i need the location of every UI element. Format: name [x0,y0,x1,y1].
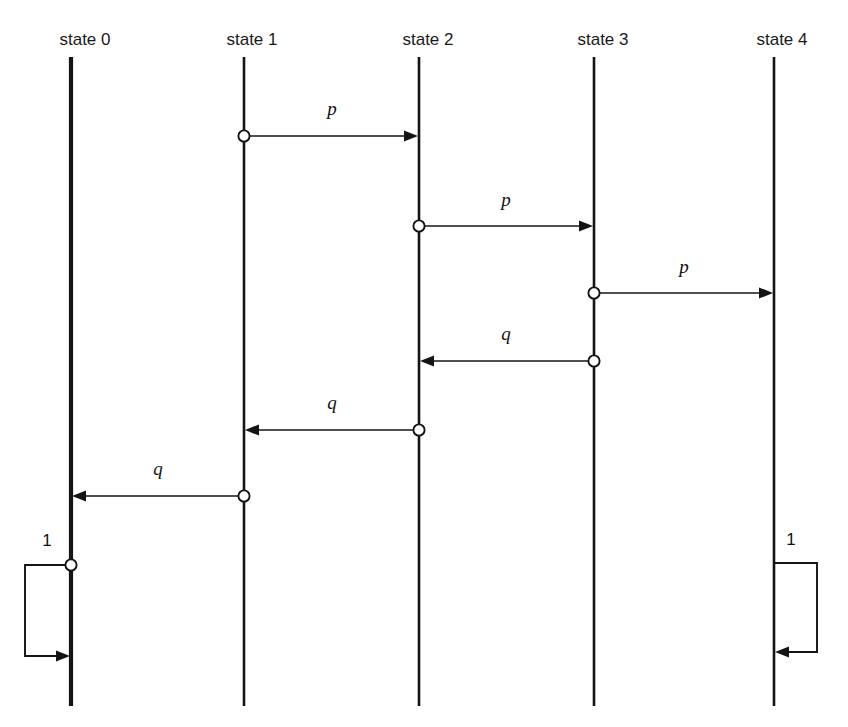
message-label-q: q [153,458,163,479]
self-loop-path [774,563,817,652]
self-loop-path [25,565,71,656]
diagram-svg: state 0 state 1 state 2 state 3 state 4 [0,0,848,727]
lifeline-labels-group: state 0 state 1 state 2 state 3 state 4 [59,30,807,49]
messages-group [72,130,773,501]
lifeline-label-state-2: state 2 [402,30,453,49]
event-dot [238,130,249,141]
message-arrow [413,220,593,231]
message-label-p: p [677,256,689,277]
message-label-p: p [499,189,511,210]
arrowhead-icon [72,490,86,501]
event-dot [413,220,424,231]
message-arrow [588,287,773,298]
arrowhead-icon [56,650,70,661]
arrowhead-icon [759,287,773,298]
message-arrow [420,355,600,366]
event-dot [65,559,76,570]
message-label-q: q [501,323,511,344]
self-loop-label-1: 1 [42,531,51,550]
event-dot [238,490,249,501]
arrowhead-icon [404,130,418,141]
message-labels-group: p p p q q q [153,98,689,479]
self-loop-state-0 [25,559,77,661]
arrowhead-icon [579,220,593,231]
self-loops-group [25,559,817,661]
event-dot [413,424,424,435]
event-dot [588,287,599,298]
sequence-diagram-canvas: state 0 state 1 state 2 state 3 state 4 [0,0,848,727]
message-label-p: p [325,98,337,119]
lifelines-group [71,57,774,706]
message-arrow [72,490,250,501]
self-loop-label-1: 1 [786,530,795,549]
lifeline-label-state-4: state 4 [756,30,807,49]
message-arrow [238,130,418,141]
lifeline-label-state-0: state 0 [59,30,110,49]
lifeline-label-state-1: state 1 [226,30,277,49]
message-label-q: q [327,392,337,413]
arrowhead-icon [775,646,789,657]
self-loop-state-4 [774,563,817,658]
event-dot [588,355,599,366]
arrowhead-icon [420,355,434,366]
message-arrow [245,424,425,435]
arrowhead-icon [245,424,259,435]
lifeline-label-state-3: state 3 [577,30,628,49]
